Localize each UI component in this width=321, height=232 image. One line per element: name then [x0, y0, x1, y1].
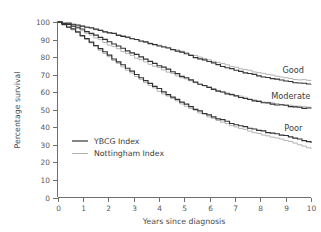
x-tick-label: 9 [284, 204, 289, 213]
group-label-moderate: Moderate [271, 91, 310, 101]
survival-curves-plot: 0102030405060708090100 012345678910 Good… [0, 0, 321, 232]
legend-label: Nottingham Index [94, 149, 164, 158]
x-tick-label: 8 [258, 204, 263, 213]
survival-chart-figure: 0102030405060708090100 012345678910 Good… [0, 0, 321, 232]
x-tick-label: 1 [81, 204, 86, 213]
y-tick-label: 90 [41, 36, 51, 45]
y-tick-label: 100 [36, 18, 50, 27]
x-tick-label: 7 [233, 204, 238, 213]
x-tick-label: 0 [56, 204, 61, 213]
y-tick-label: 10 [41, 176, 51, 185]
y-tick-label: 60 [41, 88, 51, 97]
legend-label: YBCG Index [93, 137, 140, 146]
group-label-good: Good [282, 65, 304, 75]
y-tick-label: 20 [41, 158, 51, 167]
x-tick-label: 5 [182, 204, 187, 213]
survival-curve [58, 22, 312, 149]
y-tick-label: 30 [41, 141, 51, 150]
y-tick-label: 0 [45, 194, 50, 203]
y-tick-label: 70 [41, 71, 51, 80]
y-tick-label: 50 [41, 106, 51, 115]
x-axis-ticks: 012345678910 [56, 198, 316, 214]
x-tick-label: 10 [307, 204, 317, 213]
curve-group [58, 22, 312, 149]
x-axis-title: Years since diagnosis [142, 217, 226, 226]
x-tick-label: 2 [106, 204, 111, 213]
x-tick-label: 4 [157, 204, 162, 213]
survival-curve [58, 22, 312, 143]
x-tick-label: 6 [208, 204, 213, 213]
y-tick-label: 40 [41, 123, 51, 132]
survival-curve [58, 22, 312, 81]
axis-group [58, 22, 312, 198]
group-annotation-group: GoodModeratePoor [271, 65, 310, 133]
y-tick-label: 80 [41, 53, 51, 62]
group-label-poor: Poor [284, 123, 303, 133]
x-tick-label: 3 [132, 204, 137, 213]
chart-legend: YBCG IndexNottingham Index [72, 137, 164, 159]
y-axis-ticks: 0102030405060708090100 [36, 18, 58, 203]
y-axis-title: Percentage survival [13, 72, 22, 149]
